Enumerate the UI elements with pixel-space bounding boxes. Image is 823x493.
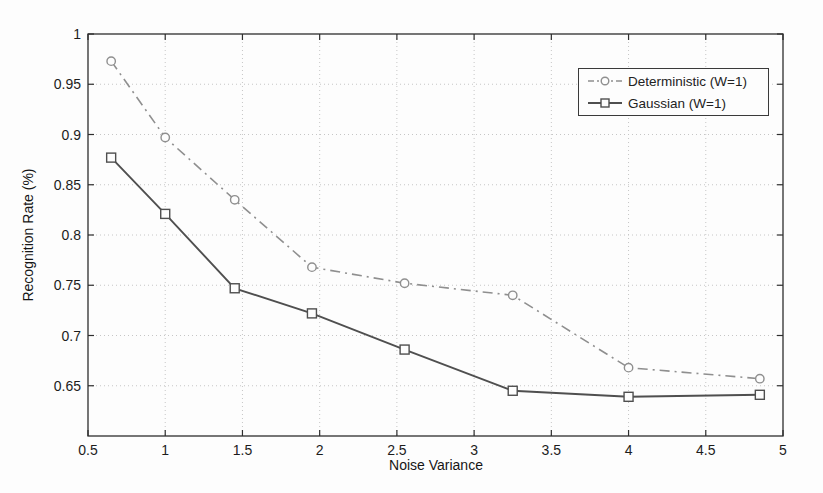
data-point-circle-deterministic: [400, 279, 408, 287]
data-point-circle-deterministic: [756, 375, 764, 383]
x-tick-label: 0.5: [78, 442, 98, 458]
y-tick-label: 0.7: [62, 328, 82, 344]
data-point-circle-deterministic: [308, 263, 316, 271]
x-tick-label: 5: [779, 442, 787, 458]
data-point-circle-deterministic: [624, 363, 632, 371]
x-tick-label: 4.5: [696, 442, 716, 458]
series-line-gaussian: [111, 158, 760, 397]
data-point-square-gaussian: [161, 209, 170, 218]
x-tick-label: 1: [161, 442, 169, 458]
data-point-square-gaussian: [230, 284, 239, 293]
data-point-circle-deterministic: [231, 196, 239, 204]
gaussian-line-sample: [587, 96, 623, 110]
data-point-square-gaussian: [307, 309, 316, 318]
x-tick-label: 3: [470, 442, 478, 458]
data-point-square-gaussian: [508, 386, 517, 395]
chart-figure: 0.511.522.533.544.550.650.70.750.80.850.…: [0, 0, 823, 493]
deterministic-line-sample: [587, 74, 623, 88]
y-tick-label: 0.9: [62, 127, 82, 143]
y-tick-label: 0.65: [54, 378, 81, 394]
x-tick-label: 2.5: [387, 442, 407, 458]
legend-sample-square-marker: [601, 99, 609, 107]
x-axis-label: Noise Variance: [389, 457, 483, 473]
data-point-circle-deterministic: [107, 57, 115, 65]
legend-item-gaussian: Gaussian (W=1): [587, 92, 768, 114]
y-tick-label: 0.75: [54, 277, 81, 293]
legend-item-deterministic: Deterministic (W=1): [587, 70, 768, 92]
data-point-square-gaussian: [107, 153, 116, 162]
x-tick-label: 1.5: [233, 442, 253, 458]
x-tick-label: 4: [625, 442, 633, 458]
legend-label-gaussian: Gaussian (W=1): [628, 96, 726, 111]
y-tick-label: 1: [73, 26, 81, 42]
data-point-circle-deterministic: [509, 291, 517, 299]
data-point-square-gaussian: [755, 390, 764, 399]
legend-label-deterministic: Deterministic (W=1): [628, 74, 747, 89]
data-point-square-gaussian: [400, 345, 409, 354]
y-tick-label: 0.95: [54, 76, 81, 92]
data-point-square-gaussian: [624, 392, 633, 401]
x-tick-label: 3.5: [542, 442, 562, 458]
x-tick-label: 2: [316, 442, 324, 458]
y-tick-label: 0.85: [54, 177, 81, 193]
data-point-circle-deterministic: [161, 133, 169, 141]
legend: Deterministic (W=1) Gaussian (W=1): [578, 68, 769, 116]
legend-sample-circle-marker: [601, 77, 609, 85]
y-tick-label: 0.8: [62, 227, 82, 243]
y-axis-label: Recognition Rate (%): [20, 168, 36, 301]
